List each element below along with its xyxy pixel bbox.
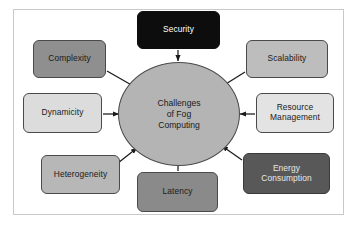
node-complexity[interactable]: Complexity — [33, 40, 106, 78]
center-node-challenges-of-fog-computing[interactable]: Challenges of Fog Computing — [118, 62, 240, 166]
node-heterogeneity[interactable]: Heterogeneity — [41, 155, 120, 194]
node-security[interactable]: Security — [137, 11, 220, 49]
node-latency[interactable]: Latency — [137, 172, 218, 212]
node-dynamicity[interactable]: Dynamicity — [23, 93, 102, 133]
arrow-heterogeneity-to-center — [118, 148, 137, 163]
fog-computing-challenges-diagram: Challenges of Fog Computing Security Com… — [0, 0, 357, 228]
node-scalability[interactable]: Scalability — [246, 40, 328, 78]
node-energy-consumption[interactable]: Energy Consumption — [243, 153, 330, 194]
node-resource-management[interactable]: Resource Management — [256, 93, 334, 133]
